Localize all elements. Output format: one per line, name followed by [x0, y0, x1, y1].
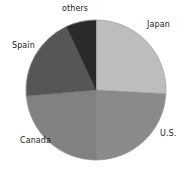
pie-chart: others Japan Spain U.S. Canada	[0, 0, 188, 184]
pie-label-japan: Japan	[147, 20, 170, 30]
pie-label-us: U.S.	[160, 129, 176, 139]
pie-label-spain: Spain	[12, 41, 35, 51]
pie-slice-canada	[26, 90, 96, 160]
pie-label-others: others	[62, 4, 88, 14]
pie-slice-japan	[96, 20, 166, 94]
pie-slice-u-s	[96, 90, 166, 160]
pie-label-canada: Canada	[20, 136, 51, 146]
